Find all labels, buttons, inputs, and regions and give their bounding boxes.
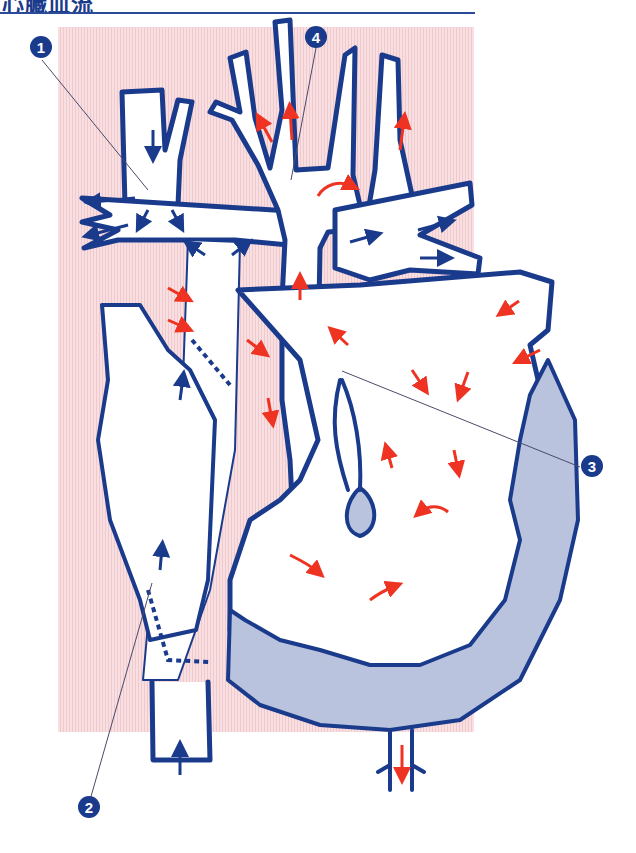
callout-2: 2 (78, 796, 100, 818)
callout-4: 4 (305, 26, 327, 48)
callout-3: 3 (581, 455, 603, 477)
callout-1: 1 (30, 36, 52, 58)
heart-circulation-diagram (0, 0, 636, 853)
